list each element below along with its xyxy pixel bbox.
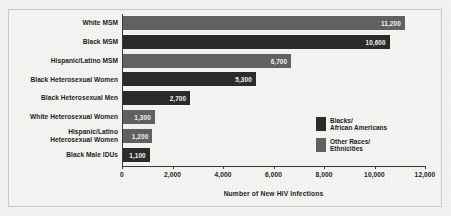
- legend-swatch: [316, 117, 326, 131]
- axis-tick-label: 6,000: [265, 171, 282, 178]
- category-label: Black MSM: [10, 35, 118, 49]
- bar: 2,700: [122, 91, 190, 105]
- bar: 5,300: [122, 72, 256, 86]
- bar-row: 10,600: [122, 35, 425, 49]
- category-label: Black Male IDUs: [10, 148, 118, 162]
- bar-value-label: 1,300: [134, 113, 151, 120]
- bar-value-label: 10,600: [365, 38, 385, 45]
- bar: 1,200: [122, 129, 152, 143]
- legend-swatch: [316, 138, 326, 152]
- bar-value-label: 5,300: [235, 76, 252, 83]
- category-label-line: Black Heterosexual Men: [41, 94, 118, 101]
- axis-tick-label: 10,000: [364, 171, 385, 178]
- figure-container: White MSMBlack MSMHispanic/Latino MSMBla…: [0, 0, 451, 216]
- axis-tick-label: 4,000: [214, 171, 231, 178]
- x-axis-title: Number of New HIV Infections: [122, 190, 425, 197]
- legend-label: Blacks/African Americans: [330, 117, 387, 132]
- legend-label-line: Ethnicities: [330, 145, 370, 152]
- category-label-line: Hispanic/Latino: [68, 128, 118, 135]
- category-label-line: White Heterosexual Women: [30, 113, 118, 120]
- axis-tick: [173, 166, 174, 169]
- legend-label-line: Other Races/: [330, 138, 370, 145]
- axis-tick: [122, 166, 123, 169]
- category-label-line: White MSM: [82, 19, 118, 26]
- axis-tick-label: 0: [120, 171, 124, 178]
- category-label: Black Heterosexual Women: [10, 72, 118, 86]
- category-label-line: Black MSM: [83, 38, 118, 45]
- legend-label-line: African Americans: [330, 124, 387, 131]
- category-label: White MSM: [10, 16, 118, 30]
- category-label-line: Black Heterosexual Women: [30, 76, 118, 83]
- axis-tick: [274, 166, 275, 169]
- bar-row: 11,200: [122, 16, 425, 30]
- category-label: Black Heterosexual Men: [10, 91, 118, 105]
- category-label: Hispanic/Latino MSM: [10, 54, 118, 68]
- axis-tick: [324, 166, 325, 169]
- bar-chart-plot: White MSMBlack MSMHispanic/Latino MSMBla…: [0, 0, 451, 216]
- bar: 6,700: [122, 54, 291, 68]
- legend-item: Other Races/Ethnicities: [316, 138, 387, 153]
- bar: 11,200: [122, 16, 405, 30]
- bar: 1,300: [122, 110, 155, 124]
- bar-value-label: 1,200: [132, 132, 149, 139]
- axis-tick: [375, 166, 376, 169]
- chart-legend: Blacks/African AmericansOther Races/Ethn…: [316, 117, 387, 159]
- category-label-line: Heterosexual Women: [50, 136, 118, 143]
- bar: 10,600: [122, 35, 390, 49]
- axis-tick: [223, 166, 224, 169]
- axis-tick-label: 2,000: [164, 171, 181, 178]
- category-label-line: Black Male IDUs: [66, 151, 118, 158]
- bar-row: 2,700: [122, 91, 425, 105]
- legend-label-line: Blacks/: [330, 117, 387, 124]
- axis-tick-label: 8,000: [315, 171, 332, 178]
- axis-tick: [425, 166, 426, 169]
- bar-value-label: 2,700: [170, 95, 187, 102]
- bar-row: 6,700: [122, 54, 425, 68]
- value-axis-baseline: [122, 14, 123, 167]
- axis-tick-label: 12,000: [415, 171, 436, 178]
- bar-value-label: 1,100: [129, 151, 146, 158]
- category-label: Hispanic/LatinoHeterosexual Women: [10, 129, 118, 143]
- category-label: White Heterosexual Women: [10, 110, 118, 124]
- bar-value-label: 11,200: [381, 20, 401, 27]
- legend-item: Blacks/African Americans: [316, 117, 387, 132]
- category-axis-labels: White MSMBlack MSMHispanic/Latino MSMBla…: [10, 16, 118, 166]
- bar-row: 5,300: [122, 72, 425, 86]
- legend-label: Other Races/Ethnicities: [330, 138, 370, 153]
- bar-value-label: 6,700: [271, 57, 288, 64]
- category-label-line: Hispanic/Latino MSM: [51, 57, 118, 64]
- bar: 1,100: [122, 148, 150, 162]
